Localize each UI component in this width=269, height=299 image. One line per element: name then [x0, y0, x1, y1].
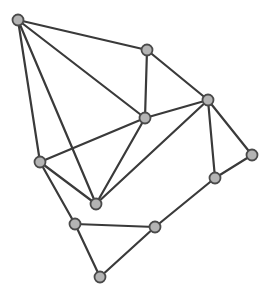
background — [0, 0, 269, 299]
graph-diagram — [0, 0, 269, 299]
node-B — [142, 45, 153, 56]
node-E — [35, 157, 46, 168]
node-F — [91, 199, 102, 210]
node-A — [13, 15, 24, 26]
node-C — [203, 95, 214, 106]
node-I — [70, 219, 81, 230]
node-H — [210, 173, 221, 184]
node-K — [95, 272, 106, 283]
node-G — [247, 150, 258, 161]
node-J — [150, 222, 161, 233]
node-D — [140, 113, 151, 124]
